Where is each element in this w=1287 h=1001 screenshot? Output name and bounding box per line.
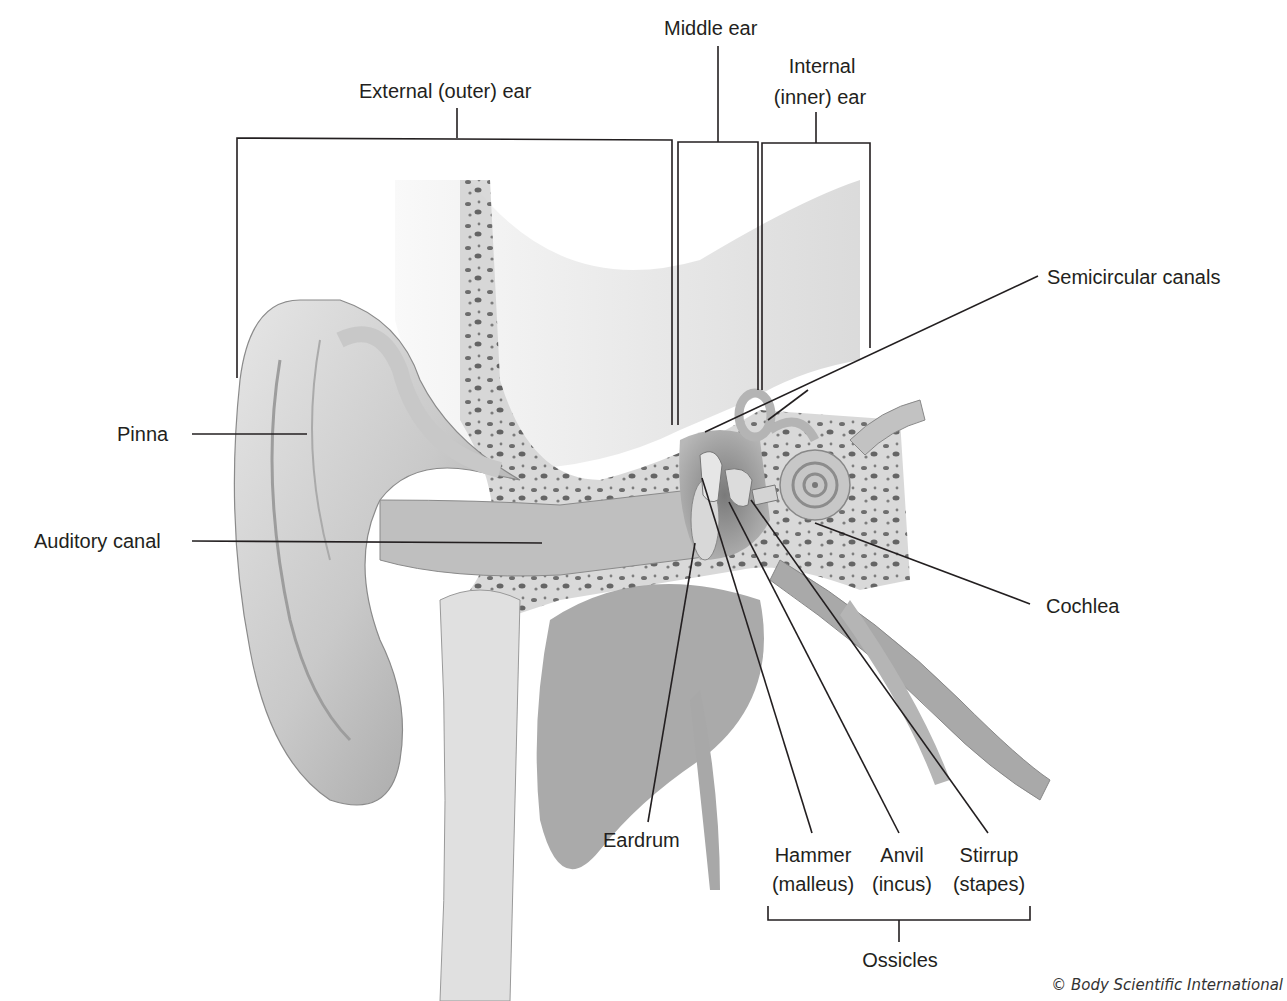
stirrup-label: Stirrup (946, 843, 1032, 867)
semicircular-canals-label: Semicircular canals (1047, 265, 1220, 289)
ossicles-label: Ossicles (850, 948, 950, 972)
internal-ear-label-line2: (inner) ear (765, 85, 875, 109)
auditory-canal-label: Auditory canal (34, 529, 161, 553)
eardrum-label: Eardrum (603, 828, 680, 852)
cochlea-shape (780, 450, 850, 520)
stirrup-latin-label: (stapes) (946, 872, 1032, 896)
anvil-latin-label: (incus) (866, 872, 938, 896)
cochlea-label: Cochlea (1046, 594, 1119, 618)
anvil-label: Anvil (866, 843, 938, 867)
middle-ear-label: Middle ear (664, 16, 757, 40)
copyright-credit: © Body Scientific International (1051, 976, 1283, 994)
hammer-label: Hammer (766, 843, 860, 867)
external-ear-label: External (outer) ear (359, 79, 531, 103)
ossicles-bracket (768, 906, 1030, 920)
pinna-label: Pinna (117, 422, 168, 446)
hammer-latin-label: (malleus) (766, 872, 860, 896)
internal-ear-label-line1: Internal (787, 54, 857, 78)
hammer-shape (700, 452, 722, 502)
